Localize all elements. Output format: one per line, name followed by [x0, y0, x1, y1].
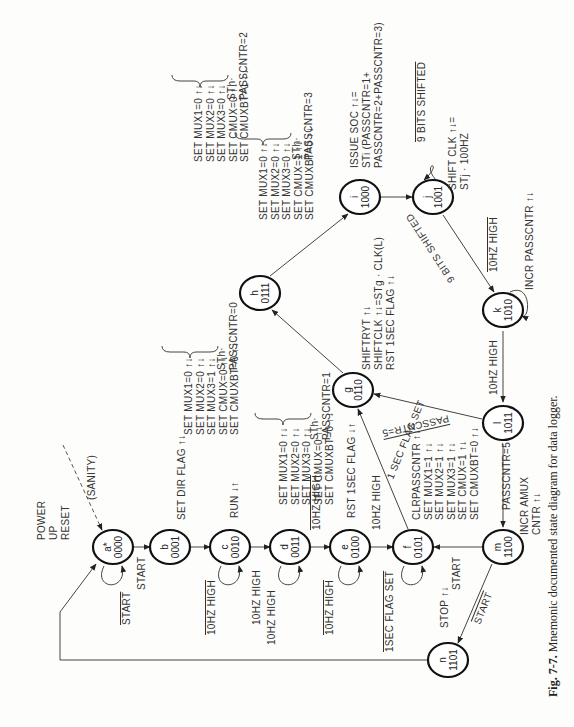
label-c-d: 10HZ HIGH	[251, 570, 262, 625]
label-f-self: 1SEC FLAG SET	[384, 571, 395, 652]
label-m-f: START	[451, 557, 462, 590]
label-g-out: SHIFTRYT ↑↓SHIFTCLK ↑↓=STg · CLK(L)RST 1…	[361, 237, 396, 370]
brace-h0	[162, 346, 218, 358]
label-j-out: SHIFT CLK ↑↓=STj · 100HZ	[447, 117, 470, 190]
state-node-n: n1101	[428, 643, 468, 677]
label-h-cond1: STh·PASSCNTR=2	[226, 32, 249, 100]
label-c-self: 10HZ HIGH	[206, 580, 217, 635]
state-node-i: i1000	[340, 180, 380, 214]
label-h-cond2: STh·PASSCNTR=3	[291, 92, 314, 160]
figure-caption: Fig. 7-7. Mnemonic documented state diag…	[546, 395, 560, 697]
label-d-cond: STh·PASSCNTR=1	[309, 372, 332, 440]
label-f-block: CLRPASSCNTR ↑↓SET MUX1=1 ↑↓SET MUX2=1 ↑↓…	[411, 427, 480, 520]
label-a-self: START	[121, 592, 132, 625]
state-node-f: f0101	[393, 530, 433, 564]
label-h-cond0: STh·PASSCNTR=0	[216, 302, 239, 370]
label-j-self: 9 BITS SHIFTED	[416, 62, 427, 142]
self-loop-a	[102, 566, 123, 585]
label-j-k: 9 BITS SHIFTED	[404, 212, 457, 285]
label-m-out: INCR AMUXCNTR ↑↓	[519, 477, 542, 535]
self-loop-f	[402, 566, 423, 585]
state-node-a: a*0000	[93, 530, 133, 564]
self-loop-e	[339, 566, 360, 585]
label-k-out: INCR PASSCNTR ↑↓	[524, 191, 535, 290]
self-loop-j	[424, 166, 436, 180]
label-c-out: RUN ↓↑	[229, 482, 240, 518]
self-loop-c	[219, 566, 240, 585]
label-i-out: ISSUE SOC ↑↓=STi (PASSCNTR=1+PASSCNTR=2+…	[349, 22, 384, 168]
state-node-m: m1100	[483, 530, 523, 564]
label-a-b: START	[136, 557, 147, 590]
label-l-m: PASSCNTR=5	[501, 442, 512, 510]
label-power-up: POWERUPRESET	[36, 501, 71, 540]
brace-d	[255, 413, 311, 425]
edge-n-a	[60, 564, 427, 660]
label-k-self: 10HZ HIGH	[488, 217, 499, 272]
label-e-out: RST 1SEC FLAG ↓↑	[346, 423, 357, 518]
label-m-n: START	[472, 591, 495, 626]
label-e-self: 10HZ HIGH	[324, 580, 335, 635]
edge-g-h	[272, 310, 343, 373]
state-diagram: a*0000b0001c0010d0011e0100f0101m1100n110…	[0, 0, 574, 727]
label-e-f: 10HZ HIGH	[371, 475, 382, 530]
edge-l-g	[374, 394, 482, 419]
state-node-b: b0001	[150, 530, 190, 564]
state-diagram-figure: a*0000b0001c0010d0011e0100f0101m1100n110…	[0, 0, 574, 727]
state-node-g: g0110	[333, 373, 373, 407]
label-k-l: 10HZ HIGH	[488, 340, 499, 395]
state-node-h: h0111	[240, 276, 280, 310]
state-node-c: c0010	[210, 530, 250, 564]
state-node-k: k1010	[483, 293, 523, 327]
state-node-d: d0011	[270, 530, 310, 564]
label-b-out: SET DIR FLAG ↑↓	[176, 435, 187, 520]
state-node-l: l1011	[483, 406, 523, 440]
state-node-e: e0100	[330, 530, 370, 564]
edge-h-i	[270, 214, 348, 276]
label-sanity: (SANITY)	[86, 455, 97, 500]
label-n-out: STOP ↑↓	[439, 586, 450, 628]
self-loop-d	[279, 566, 300, 585]
label-d-self: 10HZ HIGH	[266, 590, 277, 645]
